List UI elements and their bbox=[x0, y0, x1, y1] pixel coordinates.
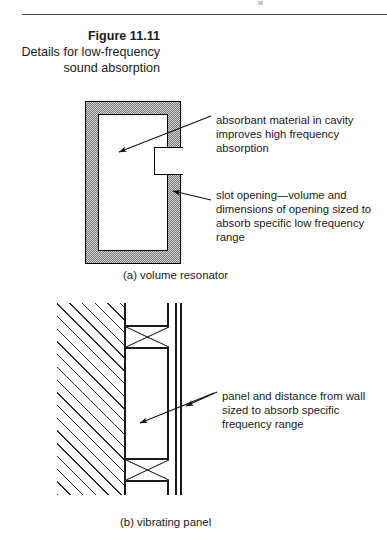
cross-brace-icon bbox=[126, 460, 169, 480]
caption-vibrating-panel: (b) vibrating panel bbox=[120, 516, 211, 528]
volume-resonator-diagram bbox=[85, 101, 181, 264]
vibrating-panel-diagram bbox=[57, 303, 185, 495]
framing-block-bottom bbox=[126, 458, 169, 482]
annotation-slot-opening: slot opening—volume and dimensions of op… bbox=[216, 188, 384, 244]
wall-hatching bbox=[57, 303, 125, 495]
annotation-panel-distance: panel and distance from wall sized to ab… bbox=[222, 389, 382, 431]
vibrating-panel-layer bbox=[175, 303, 182, 495]
header-rule bbox=[22, 14, 387, 15]
caption-volume-resonator: (a) volume resonator bbox=[123, 269, 228, 281]
header-tick-mark bbox=[258, 1, 263, 5]
cross-brace-icon bbox=[126, 327, 169, 347]
framing-block-top bbox=[126, 325, 169, 349]
resonator-cavity bbox=[98, 114, 168, 251]
figure-description: Details for low-frequency sound absorpti… bbox=[10, 44, 160, 76]
figure-caption: Figure 11.11 Details for low-frequency s… bbox=[10, 28, 160, 77]
resonator-slot-opening bbox=[154, 147, 183, 175]
figure-number: Figure 11.11 bbox=[10, 28, 160, 44]
annotation-absorbant-material: absorbant material in cavity improves hi… bbox=[216, 113, 384, 155]
leader-panel-right bbox=[186, 392, 217, 406]
